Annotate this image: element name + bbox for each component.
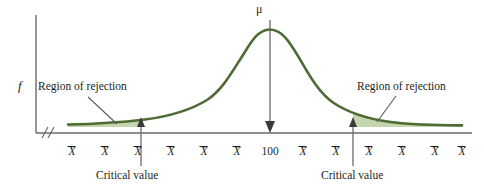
x-bar-symbol: X [398,145,405,157]
distribution-chart-svg [0,0,484,192]
x-axis-tick-label: X [167,145,174,157]
x-bar-symbol: X [332,145,339,157]
right-critical-value-label: Critical value [321,169,383,181]
x-axis-tick-label: X [299,145,306,157]
normal-distribution-figure: f μ Region of rejection Region of reject… [0,0,484,192]
x-bar-symbol: X [134,145,141,157]
x-axis-tick-label: X [365,145,372,157]
x-axis-tick-label: X [233,145,240,157]
x-bar-symbol: X [233,145,240,157]
x-axis-tick-label: X [101,145,108,157]
y-axis-label: f [18,78,22,94]
right-region-leader-line [377,96,396,122]
x-bar-symbol: X [458,145,465,157]
x-bar-symbol: X [167,145,174,157]
x-axis-tick-label: 100 [261,145,278,157]
x-axis-tick-label: X [458,145,465,157]
x-axis-tick-label: X [134,145,141,157]
left-region-leader-line [88,97,117,124]
x-bar-symbol: X [365,145,372,157]
x-bar-symbol: X [431,145,438,157]
normal-curve [68,30,462,126]
x-axis-tick-label: X [398,145,405,157]
right-region-of-rejection-label: Region of rejection [357,80,446,92]
x-axis-tick-label: X [431,145,438,157]
x-axis-tick-label: X [332,145,339,157]
x-axis-tick-label: X [200,145,207,157]
mu-label: μ [256,2,262,17]
left-critical-value-label: Critical value [96,169,158,181]
left-region-of-rejection-label: Region of rejection [38,80,127,92]
mu-arrow-head-icon [265,121,275,133]
x-bar-symbol: X [200,145,207,157]
x-bar-symbol: X [101,145,108,157]
x-bar-symbol: X [68,145,75,157]
x-axis-tick-label: X [68,145,75,157]
x-bar-symbol: X [299,145,306,157]
